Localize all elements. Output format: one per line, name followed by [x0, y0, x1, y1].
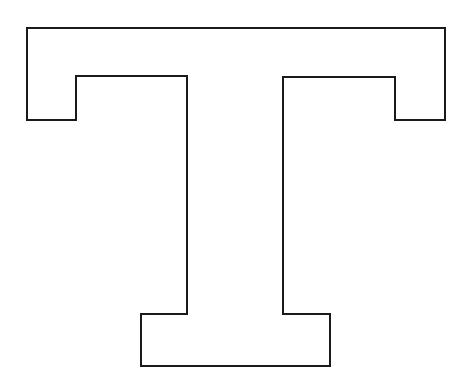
- letter-t-outline: [27, 28, 445, 366]
- canvas: [0, 0, 463, 392]
- letter-t-figure: [0, 0, 463, 392]
